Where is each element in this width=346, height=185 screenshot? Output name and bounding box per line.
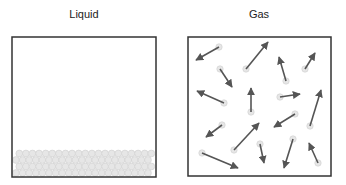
velocity-arrow [310, 90, 321, 126]
velocity-arrow [274, 114, 295, 127]
velocity-arrow [279, 57, 286, 81]
velocity-arrow [305, 53, 315, 69]
velocity-arrow [206, 125, 222, 137]
velocity-arrow [284, 139, 293, 168]
gas-particles [196, 42, 321, 168]
gas-container [188, 37, 331, 176]
velocity-arrow [196, 47, 219, 60]
states-of-matter-diagram [0, 0, 346, 185]
velocity-arrow [220, 69, 232, 87]
velocity-arrow [202, 153, 238, 168]
liquid-particles [13, 150, 155, 176]
velocity-arrow [309, 143, 318, 163]
velocity-arrow [234, 123, 259, 150]
velocity-arrow [197, 91, 224, 103]
velocity-arrow [246, 42, 268, 69]
